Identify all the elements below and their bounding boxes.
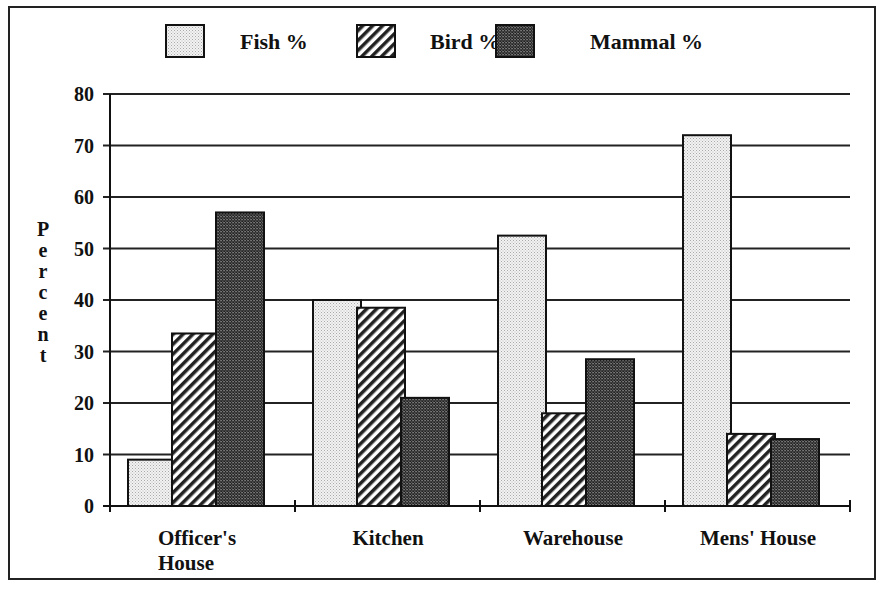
y-axis-label: Percent <box>37 218 49 366</box>
y-tick-label: 80 <box>74 83 94 105</box>
y-tick-label: 0 <box>84 495 94 517</box>
y-tick-label: 10 <box>74 444 94 466</box>
y-label-letter: n <box>37 323 48 345</box>
bar-chart: Fish %Bird %Mammal % Percent 01020304050… <box>0 0 882 591</box>
y-tick-label: 20 <box>74 392 94 414</box>
y-label-letter: P <box>37 218 49 240</box>
y-tick-label: 40 <box>74 289 94 311</box>
bar-fish--3 <box>683 135 731 506</box>
y-tick-label: 60 <box>74 186 94 208</box>
bar-fish--2 <box>498 236 546 506</box>
x-tick-label: House <box>158 551 214 575</box>
x-axis-labels: Officer'sHouseKitchenWarehouseMens' Hous… <box>158 526 816 575</box>
legend-swatch <box>496 25 534 57</box>
bar-mammal--0 <box>216 212 264 506</box>
bar-fish--1 <box>313 300 361 506</box>
x-tick-label: Mens' House <box>700 526 816 550</box>
legend-label: Mammal % <box>590 29 703 54</box>
x-tick-label: Warehouse <box>523 526 623 550</box>
y-label-letter: r <box>39 260 48 282</box>
y-label-letter: t <box>40 344 47 366</box>
bar-fish--0 <box>128 460 176 506</box>
bar-mammal--1 <box>401 398 449 506</box>
y-label-letter: c <box>39 281 48 303</box>
bar-mammal--2 <box>586 359 634 506</box>
y-label-letter: e <box>39 239 48 261</box>
x-tick-label: Officer's <box>158 526 236 550</box>
bars <box>128 135 819 506</box>
x-tick-label: Kitchen <box>352 526 423 550</box>
bar-bird--2 <box>542 413 590 506</box>
legend-swatch <box>357 25 395 57</box>
bar-mammal--3 <box>771 439 819 506</box>
legend: Fish %Bird %Mammal % <box>166 25 703 57</box>
bar-bird--1 <box>357 308 405 506</box>
legend-label: Fish % <box>240 29 308 54</box>
y-label-letter: e <box>39 302 48 324</box>
y-tick-label: 70 <box>74 135 94 157</box>
y-tick-label: 30 <box>74 341 94 363</box>
legend-label: Bird % <box>430 29 500 54</box>
bar-bird--3 <box>727 434 775 506</box>
legend-swatch <box>166 25 204 57</box>
bar-bird--0 <box>172 333 220 506</box>
y-tick-label: 50 <box>74 238 94 260</box>
